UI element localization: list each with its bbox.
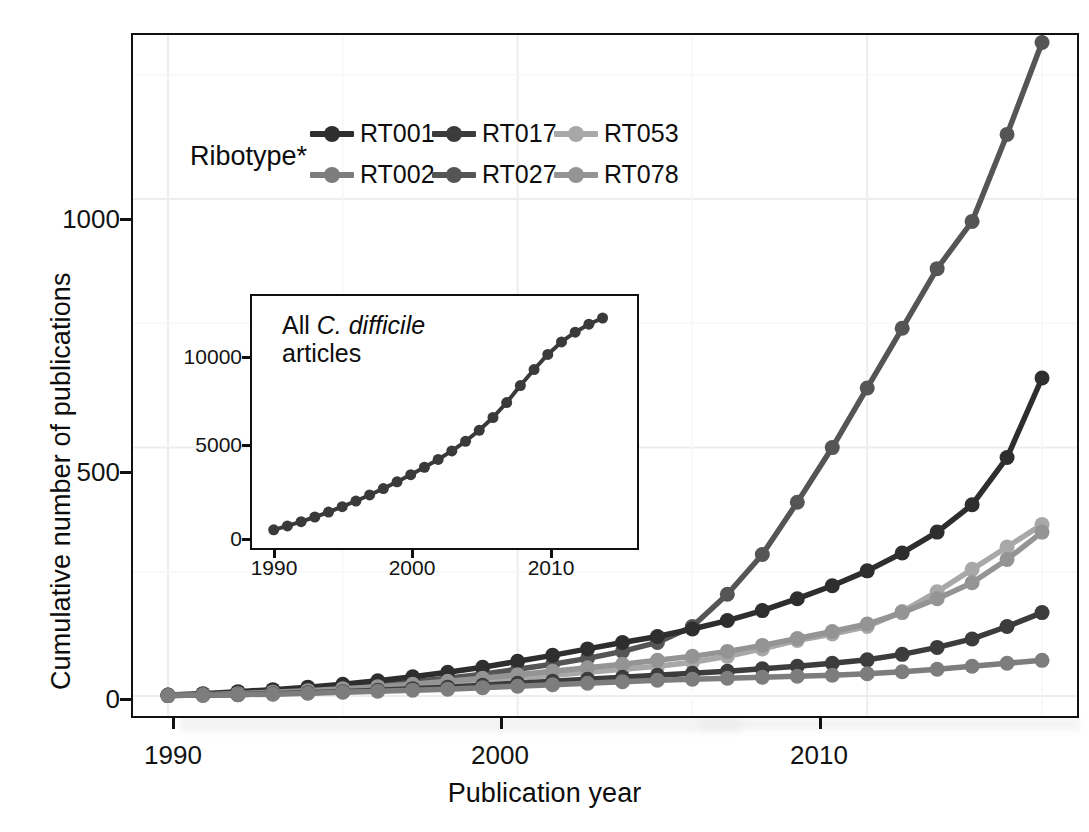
- y-tick-label-0: 0: [20, 684, 120, 715]
- y-tick-label-1000: 1000: [20, 204, 120, 235]
- y-tick-mark: [120, 698, 131, 701]
- legend-key-icon: [310, 123, 354, 145]
- inset-x-tick-1990: 1990: [236, 556, 312, 580]
- legend-entry-rt027[interactable]: RT027: [432, 154, 554, 195]
- inset-annotation: All C. difficile articles: [282, 311, 425, 367]
- legend-key-icon: [554, 123, 598, 145]
- legend-label: RT001: [360, 119, 435, 148]
- legend-point-swatch: [568, 126, 584, 142]
- legend: Ribotype* RT001RT002RT017RT027RT053RT078: [190, 113, 670, 195]
- inset-x-tick-mark: [273, 549, 276, 558]
- x-axis-title: Publication year: [0, 778, 1089, 809]
- y-tick-mark: [120, 218, 131, 221]
- x-tick-mark: [500, 718, 503, 729]
- y-tick-label-500: 500: [20, 457, 120, 488]
- inset-y-tick-mark: [242, 356, 251, 359]
- inset-x-tick-mark: [550, 549, 553, 558]
- legend-label: RT017: [482, 119, 557, 148]
- legend-entry-rt017[interactable]: RT017: [432, 113, 554, 154]
- legend-entries: RT001RT002RT017RT027RT053RT078: [310, 113, 676, 195]
- inset-y-tick-10000: 10000: [170, 345, 242, 369]
- x-tick-label-2010: 2010: [774, 740, 864, 771]
- inset-x-tick-mark: [411, 549, 414, 558]
- scan-smudge: [700, 718, 1080, 730]
- inset-x-tick-2010: 2010: [513, 556, 589, 580]
- legend-entry-rt053[interactable]: RT053: [554, 113, 676, 154]
- x-tick-label-2000: 2000: [455, 740, 545, 771]
- legend-label: RT053: [604, 119, 679, 148]
- scan-smudge: [180, 716, 740, 732]
- legend-label: RT078: [604, 160, 679, 189]
- legend-key-icon: [310, 164, 354, 186]
- inset-y-tick-mark: [242, 538, 251, 541]
- x-tick-mark: [172, 718, 175, 729]
- x-tick-mark: [819, 718, 822, 729]
- figure-canvas: Cumulative number of publications Public…: [0, 0, 1089, 832]
- y-tick-mark: [120, 471, 131, 474]
- legend-entry-rt002[interactable]: RT002: [310, 154, 432, 195]
- inset-y-tick-0: 0: [170, 527, 242, 551]
- inset-y-tick-mark: [242, 444, 251, 447]
- legend-point-swatch: [324, 126, 340, 142]
- legend-title: Ribotype*: [190, 141, 307, 172]
- legend-point-swatch: [446, 126, 462, 142]
- legend-point-swatch: [568, 167, 584, 183]
- legend-entry-rt001[interactable]: RT001: [310, 113, 432, 154]
- legend-point-swatch: [324, 167, 340, 183]
- inset-x-tick-2000: 2000: [374, 556, 450, 580]
- legend-key-icon: [432, 123, 476, 145]
- inset-note-prefix: All: [282, 311, 317, 339]
- x-tick-label-1990: 1990: [128, 740, 218, 771]
- inset-y-tick-5000: 5000: [170, 433, 242, 457]
- inset-note-species: C. difficile: [317, 311, 425, 339]
- legend-label: RT027: [482, 160, 557, 189]
- legend-key-icon: [554, 164, 598, 186]
- legend-label: RT002: [360, 160, 435, 189]
- legend-point-swatch: [446, 167, 462, 183]
- legend-key-icon: [432, 164, 476, 186]
- inset-note-line2: articles: [282, 339, 361, 367]
- legend-entry-rt078[interactable]: RT078: [554, 154, 676, 195]
